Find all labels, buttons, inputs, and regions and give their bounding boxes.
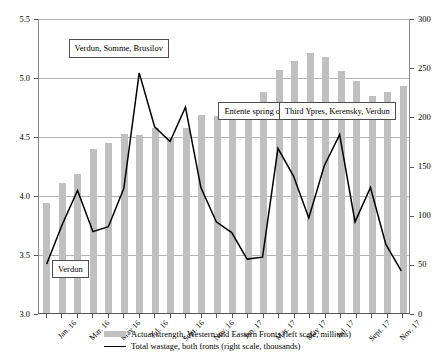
y-right-tick-label: 200 <box>418 113 431 122</box>
y-right-tick-label: 150 <box>418 162 431 171</box>
y-left-tick-label: 5.0 <box>19 74 30 83</box>
x-tick-mark <box>185 314 186 318</box>
y-left-tick-label: 5.5 <box>19 15 30 24</box>
x-tick-mark <box>402 314 403 318</box>
y-left-tick-mark <box>34 314 38 315</box>
x-tick-mark <box>247 314 248 318</box>
y-right-tick-mark <box>410 117 414 118</box>
chart-legend: Actual strength, Western and Eastern Fro… <box>104 328 351 353</box>
y-right-tick-mark <box>410 68 414 69</box>
x-tick-mark <box>154 314 155 318</box>
x-tick-label: Nov. 17 <box>398 319 422 343</box>
x-tick-mark <box>77 314 78 318</box>
x-tick-mark <box>278 314 279 318</box>
y-right-tick-mark <box>410 216 414 217</box>
x-tick-mark <box>263 314 264 318</box>
y-left-tick-label: 4.5 <box>19 133 30 142</box>
y-right-tick-label: 100 <box>418 211 431 220</box>
legend-label-strength: Actual strength, Western and Eastern Fro… <box>131 328 351 340</box>
x-tick-mark <box>325 314 326 318</box>
y-right-tick-label: 50 <box>418 260 427 269</box>
y-right-tick-label: 0 <box>418 310 422 319</box>
bar-swatch-icon <box>104 331 126 337</box>
x-tick-mark <box>309 314 310 318</box>
x-tick-mark <box>92 314 93 318</box>
chart-figure: 3.03.54.04.55.05.5 050100150200250300 Ja… <box>0 0 444 362</box>
x-tick-mark <box>108 314 109 318</box>
y-left-tick-mark <box>34 137 38 138</box>
x-tick-mark <box>387 314 388 318</box>
x-tick-mark <box>61 314 62 318</box>
annotation-callout: Verdun <box>52 260 89 279</box>
line-series-layer <box>39 19 409 313</box>
y-left-tick-label: 3.5 <box>19 251 30 260</box>
x-tick-label: Jan. 16 <box>56 319 78 341</box>
x-tick-mark <box>201 314 202 318</box>
y-left-tick-label: 3.0 <box>19 310 30 319</box>
annotation-callout: Verdun, Somme, Brusilov <box>69 39 169 58</box>
y-right-tick-mark <box>410 314 414 315</box>
y-right-tick-label: 300 <box>418 15 431 24</box>
x-tick-label: Sept. 17 <box>367 319 391 343</box>
x-tick-mark <box>216 314 217 318</box>
legend-item-wastage: Total wastage, both fronts (right scale,… <box>104 340 351 352</box>
x-tick-mark <box>46 314 47 318</box>
y-right-tick-mark <box>410 167 414 168</box>
y-left-tick-label: 4.0 <box>19 192 30 201</box>
x-tick-mark <box>170 314 171 318</box>
line-swatch-icon <box>104 346 126 347</box>
x-tick-mark <box>123 314 124 318</box>
annotation-callout: Third Ypres, Kerensky, Verdun <box>279 102 396 121</box>
x-tick-mark <box>294 314 295 318</box>
y-right-tick-label: 250 <box>418 64 431 73</box>
y-right-tick-mark <box>410 19 414 20</box>
y-right-tick-mark <box>410 265 414 266</box>
plot-area <box>38 19 410 314</box>
x-tick-mark <box>139 314 140 318</box>
x-tick-mark <box>371 314 372 318</box>
y-left-tick-mark <box>34 78 38 79</box>
y-left-tick-mark <box>34 19 38 20</box>
x-tick-mark <box>340 314 341 318</box>
x-tick-mark <box>356 314 357 318</box>
y-left-tick-mark <box>34 255 38 256</box>
x-tick-mark <box>232 314 233 318</box>
y-left-tick-mark <box>34 196 38 197</box>
legend-label-wastage: Total wastage, both fronts (right scale,… <box>131 340 300 352</box>
legend-item-strength: Actual strength, Western and Eastern Fro… <box>104 328 351 340</box>
